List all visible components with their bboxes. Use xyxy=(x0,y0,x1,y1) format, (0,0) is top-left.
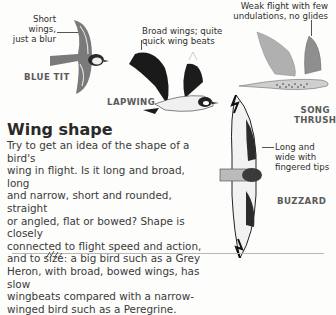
lapwing-label: LAPWING xyxy=(107,97,155,107)
body-line: connected to flight speed and action, xyxy=(7,240,207,253)
lapwing-caption: Broad wings; quite quick wing beats xyxy=(142,26,222,46)
body-line: and narrow, short and rounded, straight xyxy=(7,189,207,214)
buzzard-illustration xyxy=(208,95,274,258)
body-line: and to size: a big bird such as a Grey xyxy=(7,252,207,265)
blue-tit-label: BLUE TIT xyxy=(24,72,70,82)
caption-line: Weak flight with few xyxy=(226,1,328,11)
body-line: or angled, flat or bowed? Shape is close… xyxy=(7,215,207,240)
body-line: wing in flight. Is it long and broad, lo… xyxy=(7,164,207,189)
section-body: Try to get an idea of the shape of a bir… xyxy=(7,139,207,315)
caption-line: wide with xyxy=(275,152,329,162)
caption-line: fingered tips xyxy=(275,162,329,172)
body-line: Heron, with broad, bowed wings, has slow xyxy=(7,265,207,290)
caption-line: Long and xyxy=(275,142,329,152)
caption-line: Broad wings; quite xyxy=(142,26,222,36)
buzzard-label: BUZZARD xyxy=(277,196,326,206)
body-line: Try to get an idea of the shape of a bir… xyxy=(7,139,207,164)
song-thrush-label: SONG THRUSH xyxy=(294,105,336,125)
feather-fragment-icon xyxy=(44,250,64,258)
song-thrush-illustration xyxy=(235,24,331,90)
lapwing-illustration xyxy=(125,46,220,118)
label-line: THRUSH xyxy=(294,115,336,125)
body-line: wingbeats compared with a narrow- xyxy=(7,290,207,303)
buzzard-leader xyxy=(262,147,274,148)
section-title: Wing shape xyxy=(7,120,113,139)
buzzard-caption: Long and wide with fingered tips xyxy=(275,142,329,172)
caption-line: undulations, no glides xyxy=(226,11,328,21)
blue-tit-illustration xyxy=(44,16,110,98)
body-line: winged bird such as a Peregrine. xyxy=(7,303,207,315)
label-line: SONG xyxy=(294,105,336,115)
song-thrush-caption: Weak flight with few undulations, no gli… xyxy=(226,1,328,21)
caption-line: quick wing beats xyxy=(142,36,222,46)
